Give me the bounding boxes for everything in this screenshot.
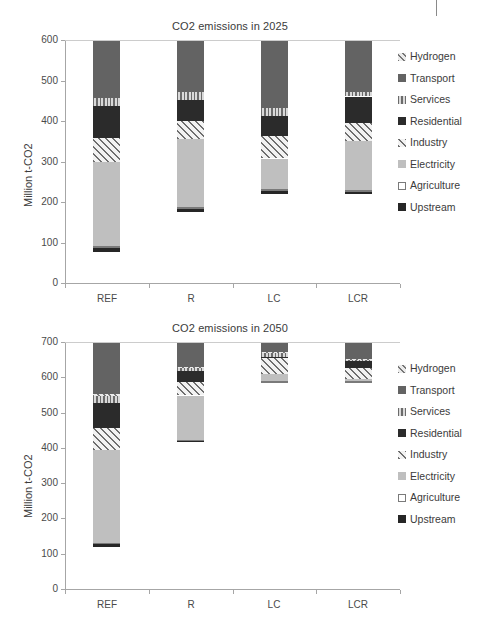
bar-segment-services[interactable]	[93, 396, 120, 403]
bar-ref[interactable]	[93, 384, 120, 589]
x-tick-mark	[316, 284, 317, 288]
x-tick-label-lc: LC	[244, 293, 304, 304]
x-tick-label-ref: REF	[77, 599, 137, 610]
bar-segment-hydrogen[interactable]	[93, 394, 120, 396]
legend-label-industry: Industry	[410, 449, 447, 460]
bar-segment-residential[interactable]	[177, 100, 204, 121]
bar-segment-services[interactable]	[345, 92, 372, 96]
bar-segment-residential[interactable]	[177, 371, 204, 382]
legend-item-residential[interactable]: Residential	[398, 115, 462, 128]
legend-item-electricity[interactable]: Electricity	[398, 470, 455, 483]
bar-segment-electricity[interactable]	[261, 374, 288, 381]
legend-item-upstream[interactable]: Upstream	[398, 513, 456, 526]
bar-segment-hydrogen[interactable]	[345, 359, 372, 360]
bar-segment-residential[interactable]	[345, 97, 372, 123]
bar-lc[interactable]	[261, 129, 288, 283]
y-tick-label: 600	[25, 34, 58, 45]
bar-segment-industry[interactable]	[177, 382, 204, 395]
bar-segment-residential[interactable]	[345, 361, 372, 368]
legend-item-services[interactable]: Services	[398, 405, 450, 418]
bar-segment-hydrogen[interactable]	[177, 367, 204, 368]
bar-segment-agriculture[interactable]	[345, 190, 372, 192]
bar-segment-residential[interactable]	[261, 116, 288, 136]
legend-item-electricity[interactable]: Electricity	[398, 158, 455, 171]
legend-item-residential[interactable]: Residential	[398, 427, 462, 440]
bar-segment-industry[interactable]	[177, 121, 204, 139]
legend-label-upstream: Upstream	[410, 202, 456, 213]
legend-item-hydrogen[interactable]: Hydrogen	[398, 50, 456, 63]
bar-segment-industry[interactable]	[93, 138, 120, 162]
bar-lcr[interactable]	[345, 548, 372, 589]
legend-label-transport: Transport	[410, 73, 455, 84]
x-tick-label-lcr: LCR	[328, 599, 388, 610]
residential-swatch	[398, 429, 406, 437]
legend-label-hydrogen: Hydrogen	[410, 363, 456, 374]
bar-segment-services[interactable]	[261, 108, 288, 116]
bar-segment-industry[interactable]	[93, 428, 120, 450]
bar-segment-residential[interactable]	[93, 106, 120, 138]
legend-item-industry[interactable]: Industry	[398, 448, 447, 461]
legend-label-transport: Transport	[410, 385, 455, 396]
y-axis-top-cap	[65, 40, 400, 41]
y-axis-line	[65, 342, 66, 590]
bar-segment-transport[interactable]	[261, 342, 288, 352]
transport-swatch	[398, 74, 406, 82]
x-tick-mark	[65, 284, 66, 288]
bar-ref[interactable]	[93, 71, 120, 283]
bar-segment-industry[interactable]	[345, 368, 372, 379]
y-tick-label: 0	[25, 277, 58, 288]
bar-lc[interactable]	[261, 548, 288, 589]
x-tick-label-r: R	[161, 293, 221, 304]
bar-segment-transport[interactable]	[345, 342, 372, 359]
y-tick-label: 500	[25, 75, 58, 86]
y-axis-top-cap	[65, 342, 400, 343]
bar-segment-electricity[interactable]	[261, 159, 288, 189]
bar-segment-services[interactable]	[93, 98, 120, 106]
x-tick-mark	[149, 590, 150, 594]
bar-r[interactable]	[177, 488, 204, 589]
legend-item-transport[interactable]: Transport	[398, 384, 455, 397]
chart-title-2025: CO2 emissions in 2025	[60, 20, 400, 32]
bar-segment-agriculture[interactable]	[261, 189, 288, 191]
bar-segment-industry[interactable]	[345, 123, 372, 141]
bar-segment-industry[interactable]	[261, 358, 288, 374]
x-tick-mark	[233, 590, 234, 594]
legend-item-transport[interactable]: Transport	[398, 72, 455, 85]
legend-item-agriculture[interactable]: Agriculture	[398, 491, 460, 504]
bar-segment-electricity[interactable]	[177, 396, 204, 440]
legend-item-services[interactable]: Services	[398, 93, 450, 106]
bar-segment-transport[interactable]	[93, 40, 120, 98]
bar-segment-agriculture[interactable]	[345, 381, 372, 383]
bar-r[interactable]	[177, 112, 204, 283]
legend-item-agriculture[interactable]: Agriculture	[398, 179, 460, 192]
legend-label-services: Services	[410, 406, 450, 417]
bar-segment-electricity[interactable]	[345, 379, 372, 381]
legend-item-hydrogen[interactable]: Hydrogen	[398, 362, 456, 375]
y-tick-label: 200	[25, 196, 58, 207]
bar-segment-transport[interactable]	[177, 342, 204, 367]
bar-segment-transport[interactable]	[93, 342, 120, 394]
bar-segment-agriculture[interactable]	[177, 207, 204, 209]
chart-panel-2050: CO2 emissions in 2050 Million t-CO2 0100…	[0, 318, 495, 633]
bar-segment-transport[interactable]	[177, 40, 204, 92]
bar-segment-agriculture[interactable]	[261, 381, 288, 383]
bar-segment-services[interactable]	[177, 92, 204, 100]
legend-item-industry[interactable]: Industry	[398, 136, 447, 149]
bar-segment-services[interactable]	[345, 360, 372, 361]
legend-label-agriculture: Agriculture	[410, 180, 460, 191]
x-tick-mark	[316, 590, 317, 594]
bar-segment-transport[interactable]	[345, 40, 372, 92]
bar-segment-hydrogen[interactable]	[261, 352, 288, 353]
bar-segment-services[interactable]	[261, 353, 288, 357]
chart-panel-2025: CO2 emissions in 2025 Million t-CO2 0100…	[0, 12, 495, 312]
bar-segment-industry[interactable]	[261, 136, 288, 158]
bar-segment-electricity[interactable]	[93, 162, 120, 246]
legend-item-upstream[interactable]: Upstream	[398, 201, 456, 214]
bar-segment-electricity[interactable]	[345, 141, 372, 190]
bar-segment-electricity[interactable]	[177, 139, 204, 207]
bar-lcr[interactable]	[345, 129, 372, 283]
bar-segment-residential[interactable]	[93, 403, 120, 428]
bar-segment-electricity[interactable]	[93, 450, 120, 543]
bar-segment-agriculture[interactable]	[93, 246, 120, 248]
bar-segment-transport[interactable]	[261, 40, 288, 108]
